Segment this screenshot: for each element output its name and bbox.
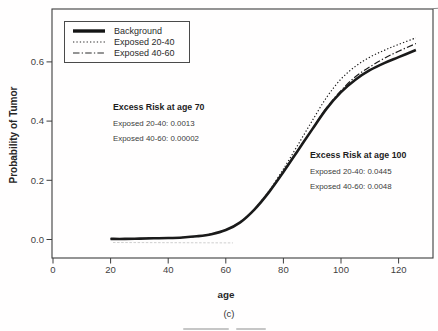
solid-line-icon: [72, 28, 106, 34]
annotation-excess-risk-age-100: Excess Risk at age 100 Exposed 20-40: 0.…: [310, 150, 406, 194]
x-tick-label: 100: [333, 264, 349, 275]
y-tick-label: 0.2: [31, 175, 44, 186]
x-axis-title: age: [218, 289, 235, 300]
y-tick-label: 0.0: [31, 234, 44, 245]
subfigure-label: (c): [223, 308, 234, 319]
y-tick-label: 0.6: [31, 56, 44, 67]
legend-entry-background: Background: [72, 26, 184, 36]
dash-dot-line-icon: [72, 50, 106, 56]
y-axis-title: Probability of Tumor: [8, 86, 19, 183]
dotted-line-icon: [72, 39, 106, 45]
legend-label-exposed-40-60: Exposed 40-60: [114, 48, 175, 58]
figure-panel-c: 0204060801001200.00.20.40.6 Probability …: [0, 0, 438, 331]
legend-entry-exposed-20-40: Exposed 20-40: [72, 37, 184, 47]
annotation-line: Exposed 40-60: 0.00002: [113, 132, 204, 147]
annotation-title: Excess Risk at age 70: [113, 102, 204, 112]
y-tick-label: 0.4: [31, 115, 44, 126]
x-tick-label: 0: [50, 264, 55, 275]
x-tick-label: 60: [221, 264, 232, 275]
annotation-line: Exposed 20-40: 0.0013: [113, 117, 204, 132]
cropped-caption-remnant: [236, 328, 266, 330]
annotation-excess-risk-age-70: Excess Risk at age 70 Exposed 20-40: 0.0…: [113, 102, 204, 146]
annotation-line: Exposed 20-40: 0.0445: [310, 165, 406, 180]
legend-entry-exposed-40-60: Exposed 40-60: [72, 48, 184, 58]
legend: Background Exposed 20-40 Exposed 40-60: [64, 21, 190, 63]
annotation-title: Excess Risk at age 100: [310, 150, 406, 160]
x-tick-label: 80: [278, 264, 289, 275]
x-tick-label: 120: [391, 264, 407, 275]
cropped-caption-remnant: [183, 328, 229, 330]
legend-label-exposed-20-40: Exposed 20-40: [114, 37, 175, 47]
x-tick-label: 40: [163, 264, 174, 275]
legend-label-background: Background: [114, 26, 162, 36]
annotation-line: Exposed 40-60: 0.0048: [310, 180, 406, 195]
x-tick-label: 20: [105, 264, 116, 275]
